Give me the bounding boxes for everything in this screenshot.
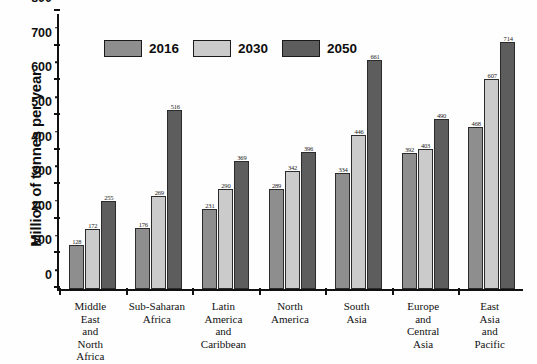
bar-slot: 231 [202, 14, 217, 289]
category-label-line: and [442, 325, 537, 338]
bar-2030: 607 [484, 79, 499, 289]
bar-slot: 290 [218, 14, 233, 289]
bar-group: 289342396 [269, 14, 316, 289]
bar-2016: 128 [69, 245, 84, 289]
bar-slot: 607 [484, 14, 499, 289]
bar-value-label: 607 [488, 72, 497, 79]
bar-group: 392403490 [402, 14, 449, 289]
bar-value-label: 714 [504, 35, 513, 42]
bar-slot: 369 [234, 14, 249, 289]
y-axis-minor-tick-mark [55, 166, 59, 168]
bar-value-label: 231 [205, 202, 214, 209]
category-label-line: and [42, 325, 138, 338]
bar-value-label: 468 [472, 120, 481, 127]
category-label-line: and [175, 325, 271, 338]
x-axis-tick-mark [126, 288, 128, 295]
bar-slot: 255 [101, 14, 116, 289]
category-label-line: Asia [442, 313, 537, 326]
category-label-line: Caribbean [175, 338, 271, 351]
category-label-line: Pacific [442, 338, 537, 351]
bar-2030: 342 [285, 171, 300, 289]
bar-2050: 396 [301, 152, 316, 289]
bar-group: 176269516 [135, 14, 182, 289]
bar-2030: 290 [218, 189, 233, 289]
bar-value-label: 255 [104, 194, 113, 201]
bar-2030: 172 [85, 229, 100, 289]
plot-area: 0100200300400500600700800128172255176269… [57, 14, 523, 291]
y-axis-minor-tick-mark [55, 131, 59, 133]
y-axis-tick-mark [54, 251, 60, 253]
bar-group: 231290369 [202, 14, 249, 289]
bar-2030: 403 [418, 149, 433, 289]
bar-2016: 289 [269, 189, 284, 289]
bar-value-label: 269 [155, 189, 164, 196]
bar-slot: 516 [167, 14, 182, 289]
bar-slot: 176 [135, 14, 150, 289]
bar-2050: 490 [434, 119, 449, 289]
bar-slot: 714 [500, 14, 515, 289]
bar-value-label: 403 [421, 142, 430, 149]
x-axis-tick-mark [458, 288, 460, 295]
y-axis-minor-tick-mark [55, 96, 59, 98]
x-axis-tick-mark [259, 288, 261, 295]
bar-group: 128172255 [69, 14, 116, 289]
y-axis-tick-mark [54, 78, 60, 80]
y-axis-minor-tick-mark [55, 62, 59, 64]
bar-2030: 269 [151, 196, 166, 289]
bar-slot: 403 [418, 14, 433, 289]
bar-group: 334446661 [335, 14, 382, 289]
bar-value-label: 392 [405, 146, 414, 153]
bar-slot: 661 [367, 14, 382, 289]
bar-slot: 269 [151, 14, 166, 289]
x-axis-tick-mark [392, 288, 394, 295]
bar-value-label: 128 [72, 238, 81, 245]
bar-2050: 714 [500, 42, 515, 289]
y-axis-minor-tick-mark [55, 269, 59, 271]
bar-value-label: 342 [288, 164, 297, 171]
y-axis-tick-label: 800 [31, 0, 59, 5]
bar-slot: 446 [351, 14, 366, 289]
category-label-line: Africa [42, 350, 138, 363]
y-axis-tick-mark [54, 182, 60, 184]
bar-slot: 468 [468, 14, 483, 289]
bar-2050: 369 [234, 161, 249, 289]
bar-2050: 516 [167, 110, 182, 289]
bar-2016: 468 [468, 127, 483, 289]
y-axis-tick-mark [54, 9, 60, 11]
bar-slot: 396 [301, 14, 316, 289]
bar-value-label: 661 [370, 53, 379, 60]
bar-2050: 661 [367, 60, 382, 289]
bar-slot: 289 [269, 14, 284, 289]
bar-value-label: 490 [437, 112, 446, 119]
bar-value-label: 396 [304, 145, 313, 152]
bar-value-label: 334 [338, 166, 347, 173]
bar-value-label: 172 [88, 222, 97, 229]
x-axis-category-7: EastAsiaandPacific [442, 300, 537, 350]
bar-value-label: 446 [354, 128, 363, 135]
bar-group: 468607714 [468, 14, 515, 289]
bar-chart: Million of tonnes per year 201620302050 … [0, 0, 537, 364]
x-axis-tick-mark [59, 288, 61, 295]
category-label-line: East [442, 300, 537, 313]
bar-slot: 490 [434, 14, 449, 289]
y-axis-minor-tick-mark [55, 235, 59, 237]
bar-slot: 392 [402, 14, 417, 289]
bar-slot: 128 [69, 14, 84, 289]
y-axis-tick-mark [54, 217, 60, 219]
bar-2050: 255 [101, 201, 116, 289]
bar-2016: 176 [135, 228, 150, 289]
bar-2016: 392 [402, 153, 417, 289]
x-axis-tick-mark [325, 288, 327, 295]
bar-2016: 334 [335, 173, 350, 289]
bar-2016: 231 [202, 209, 217, 289]
y-axis-minor-tick-mark [55, 27, 59, 29]
bar-2030: 446 [351, 135, 366, 289]
bar-value-label: 516 [171, 103, 180, 110]
bar-value-label: 369 [237, 154, 246, 161]
y-axis-tick-mark [54, 44, 60, 46]
bar-slot: 334 [335, 14, 350, 289]
y-axis-minor-tick-mark [55, 200, 59, 202]
bar-value-label: 176 [139, 221, 148, 228]
bar-slot: 342 [285, 14, 300, 289]
bar-value-label: 290 [221, 182, 230, 189]
